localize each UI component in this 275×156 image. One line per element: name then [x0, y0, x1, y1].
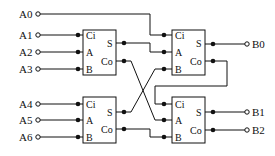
pin-a: A [86, 47, 94, 58]
terminal-a3 [36, 67, 40, 71]
pin-ci: Ci [86, 30, 96, 41]
pin-s: S [107, 38, 113, 49]
input-label-a6: A6 [19, 131, 33, 143]
pin-b: B [175, 132, 182, 143]
terminal-a5 [36, 118, 40, 122]
pin-a: A [175, 115, 183, 126]
pin-a: A [175, 47, 183, 58]
full-adder-block-1: Ci A B S Co [83, 30, 116, 75]
terminal-b1 [245, 110, 249, 114]
pin-co: Co [101, 124, 113, 135]
terminal-a0 [36, 12, 40, 16]
full-adder-block-4: Ci A B S Co [172, 97, 205, 143]
input-label-a5: A5 [19, 114, 33, 126]
input-label-a2: A2 [19, 46, 32, 58]
input-label-a4: A4 [19, 98, 33, 110]
input-label-a0: A0 [19, 8, 33, 20]
terminal-a1 [36, 33, 40, 37]
pin-co: Co [190, 56, 202, 67]
pin-ci: Ci [175, 30, 185, 41]
terminal-a6 [36, 135, 40, 139]
input-terminals: A0 A1 A2 A3 A4 A5 A6 [19, 8, 40, 143]
pin-s: S [196, 38, 202, 49]
terminal-b0 [245, 42, 249, 46]
output-terminals: B0 B1 B2 [245, 38, 266, 136]
pin-s: S [107, 107, 113, 118]
pin-b: B [86, 132, 93, 143]
pin-ci: Ci [175, 99, 185, 110]
pin-ci: Ci [86, 99, 96, 110]
input-label-a1: A1 [19, 29, 32, 41]
terminal-b2 [245, 128, 249, 132]
output-label-b1: B1 [252, 106, 265, 118]
terminal-a2 [36, 50, 40, 54]
pin-b: B [175, 64, 182, 75]
full-adder-circuit-diagram: A0 A1 A2 A3 A4 A5 A6 B0 B1 B2 Ci A B S C… [0, 0, 275, 156]
wires [40, 14, 245, 137]
pin-co: Co [190, 125, 202, 136]
pin-b: B [86, 64, 93, 75]
input-label-a3: A3 [19, 63, 33, 75]
pin-a: A [86, 115, 94, 126]
terminal-a4 [36, 102, 40, 106]
full-adder-block-3: Ci A B S Co [83, 97, 116, 143]
output-label-b2: B2 [252, 124, 265, 136]
full-adder-block-2: Ci A B S Co [172, 30, 205, 75]
output-label-b0: B0 [252, 38, 265, 50]
pin-s: S [196, 107, 202, 118]
pin-co: Co [101, 56, 113, 67]
